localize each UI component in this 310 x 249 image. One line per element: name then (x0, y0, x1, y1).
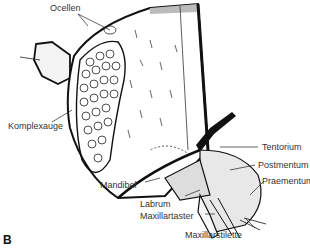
label-maxillartaster: Maxillartaster (140, 211, 194, 221)
label-komplexauge: Komplexauge (8, 121, 63, 131)
label-maxillarstilette: Maxillarstilette (185, 230, 242, 240)
label-postmentum: Postmentum (258, 160, 309, 170)
panel-label: B (3, 233, 12, 247)
label-tentorium: Tentorium (262, 142, 302, 152)
antenna-base (20, 42, 70, 84)
label-praementum: Praementum (262, 176, 310, 186)
label-ocellen: Ocellen (50, 3, 81, 13)
label-labrum: Labrum (140, 199, 171, 209)
label-mandibel: Mandibel (100, 180, 137, 190)
